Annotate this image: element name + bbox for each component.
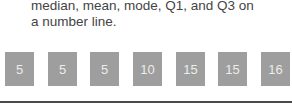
number-tile[interactable]: 5	[5, 52, 34, 86]
instructions-line-2: a number line.	[31, 14, 281, 30]
number-tile[interactable]: 15	[176, 52, 205, 86]
number-tile[interactable]: 15	[218, 52, 247, 86]
instructions-text: median, mean, mode, Q1, and Q3 on a numb…	[31, 0, 281, 30]
number-tile[interactable]: 10	[133, 52, 162, 86]
number-tile[interactable]: 5	[48, 52, 77, 86]
number-tile[interactable]: 16	[261, 52, 290, 86]
number-line	[0, 101, 292, 103]
instructions-line-1: median, mean, mode, Q1, and Q3 on	[31, 0, 281, 14]
number-tile[interactable]: 5	[90, 52, 119, 86]
number-tiles: 5 5 5 10 15 15 16	[0, 52, 292, 86]
